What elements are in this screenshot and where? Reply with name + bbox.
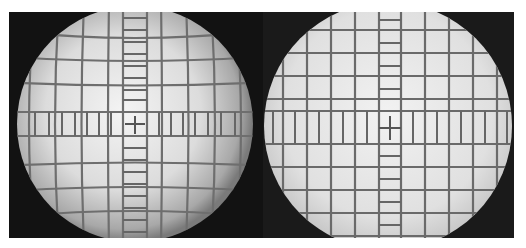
left-reticle-image [9, 12, 263, 238]
right-panel-corrected-view [263, 12, 514, 238]
figure-frame [9, 12, 514, 238]
right-field-of-view [264, 12, 512, 238]
left-panel-distorted-view [9, 12, 263, 238]
right-reticle-image [263, 12, 514, 238]
